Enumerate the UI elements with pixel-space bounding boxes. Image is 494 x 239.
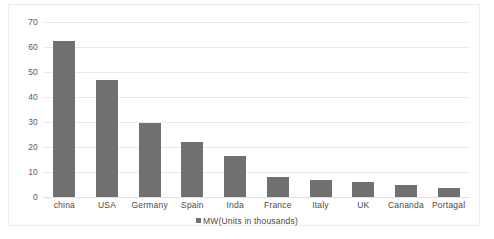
- y-axis-tick-label: 70: [2, 18, 38, 27]
- bar-slot: [128, 22, 171, 197]
- bar-slot: [214, 22, 257, 197]
- x-axis-tick-label: Portagal: [427, 199, 470, 211]
- bars-layer: [43, 22, 470, 197]
- bar-china[interactable]: [53, 41, 75, 197]
- legend-entry: MW(Units in thousands): [196, 211, 298, 229]
- y-axis: 706050403020100: [0, 22, 38, 197]
- bar-slot: [342, 22, 385, 197]
- y-axis-tick-label: 20: [2, 143, 38, 152]
- y-axis-tick-label: 60: [2, 43, 38, 52]
- legend-square-marker-icon: [196, 218, 201, 223]
- x-axis-tick-label: Cananda: [385, 199, 428, 211]
- x-axis-tick-label: France: [257, 199, 300, 211]
- bar-france[interactable]: [267, 177, 289, 197]
- bar-portagal[interactable]: [438, 188, 460, 197]
- x-axis-tick-label: china: [43, 199, 86, 211]
- bar-slot: [171, 22, 214, 197]
- bar-chart-figure: 706050403020100 chinaUSAGermanySpainInda…: [0, 0, 494, 239]
- bar-italy[interactable]: [310, 180, 332, 198]
- chart-legend: MW(Units in thousands): [0, 211, 494, 223]
- bar-slot: [43, 22, 86, 197]
- x-axis-tick-label: Inda: [214, 199, 257, 211]
- x-axis-tick-label: UK: [342, 199, 385, 211]
- bar-slot: [427, 22, 470, 197]
- bar-germany[interactable]: [139, 123, 161, 197]
- gridline-0: [43, 197, 470, 198]
- y-axis-tick-label: 0: [2, 193, 38, 202]
- y-axis-tick-label: 10: [2, 168, 38, 177]
- bar-slot: [257, 22, 300, 197]
- bar-uk[interactable]: [352, 182, 374, 197]
- bar-slot: [385, 22, 428, 197]
- bar-usa[interactable]: [96, 80, 118, 198]
- legend-label: MW(Units in thousands): [203, 216, 298, 226]
- x-axis-tick-label: Spain: [171, 199, 214, 211]
- x-axis-tick-label: Germany: [128, 199, 171, 211]
- bar-inda[interactable]: [224, 156, 246, 197]
- y-axis-tick-label: 50: [2, 68, 38, 77]
- bar-cananda[interactable]: [395, 185, 417, 198]
- bar-slot: [86, 22, 129, 197]
- bar-spain[interactable]: [181, 142, 203, 197]
- y-axis-tick-label: 40: [2, 93, 38, 102]
- bar-slot: [299, 22, 342, 197]
- y-axis-tick-label: 30: [2, 118, 38, 127]
- x-axis-tick-label: Italy: [299, 199, 342, 211]
- x-axis-tick-label: USA: [86, 199, 129, 211]
